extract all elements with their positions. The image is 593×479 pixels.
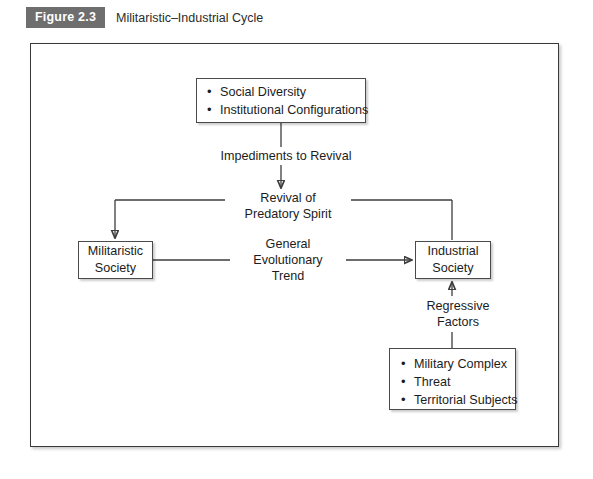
label-regressive-factors: Regressive Factors [413,298,503,330]
label-line: Factors [418,314,498,330]
list-item: Territorial Subjects [401,391,515,409]
node-label-line: Industrial [427,243,478,260]
label-line: Evolutionary [236,252,340,268]
label-revival-of-predatory-spirit: Revival of Predatory Spirit [225,190,351,222]
list-item: Military Complex [401,355,515,373]
label-line: Revival of [231,190,345,206]
node-militaristic-society[interactable]: Militaristic Society [78,241,153,279]
label-line: Trend [236,268,340,284]
list-item: Social Diversity [207,83,365,101]
node-social-inputs[interactable]: Social Diversity Institutional Configura… [196,78,366,123]
list-item: Threat [401,373,515,391]
label-impediments-to-revival: Impediments to Revival [212,148,360,164]
label-line: Predatory Spirit [231,206,345,222]
node-label-line: Society [95,260,136,277]
node-industrial-society[interactable]: Industrial Society [415,241,491,279]
flow-diagram: Social Diversity Institutional Configura… [0,0,593,479]
label-line: Regressive [418,298,498,314]
label-line: General [236,236,340,252]
list-item: Institutional Configurations [207,101,365,119]
social-inputs-list: Social Diversity Institutional Configura… [207,83,365,119]
node-label-line: Society [432,260,473,277]
node-label-line: Militaristic [88,243,143,260]
label-general-evolutionary-trend: General Evolutionary Trend [230,236,346,284]
regressive-inputs-list: Military Complex Threat Territorial Subj… [401,355,515,409]
node-regressive-inputs[interactable]: Military Complex Threat Territorial Subj… [389,348,516,410]
